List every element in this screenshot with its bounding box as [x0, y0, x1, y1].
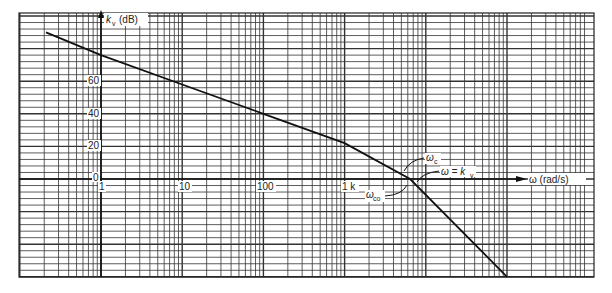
annotation-wc: ω	[426, 152, 434, 163]
log-grid	[19, 13, 594, 277]
annotation-wco-sub: co	[373, 195, 381, 202]
annotation-wc-sub: c	[434, 158, 438, 165]
x-tick-100: 100	[257, 181, 274, 192]
y-tick-40: 40	[88, 108, 100, 119]
x-tick-1k: 1 k	[342, 181, 356, 192]
x-axis-arrow-icon	[516, 176, 527, 182]
x-tick-10: 10	[179, 181, 191, 192]
bode-plot: k v (dB) 60 40 20 0 1 10 100 1 k ω (rad/…	[0, 0, 612, 293]
x-axis-label: ω (rad/s)	[529, 174, 568, 185]
y-axis-label: (dB)	[119, 14, 138, 25]
annotation-w-kv: ω = k	[441, 166, 466, 177]
y-axis-arrow-icon	[98, 10, 104, 18]
y-tick-20: 20	[88, 140, 100, 151]
y-tick-60: 60	[88, 75, 100, 86]
x-tick-1: 1	[99, 181, 105, 192]
y-axis-subscript: v	[112, 20, 116, 27]
annotation-w-kv-sub: v	[470, 172, 474, 179]
